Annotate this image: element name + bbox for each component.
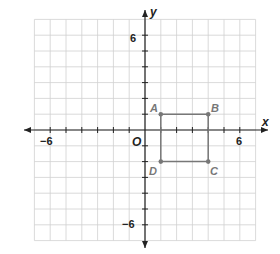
- origin-label: O: [132, 135, 142, 149]
- y-tick-label-6: 6: [130, 32, 136, 44]
- point-a-dot: [159, 112, 164, 117]
- axes: [24, 10, 268, 248]
- y-tick-label-neg6: −6: [122, 218, 135, 230]
- coordinate-plane: x y O −6 6 6 −6 A B C D: [0, 0, 280, 254]
- x-axis-left-arrow-icon: [24, 127, 31, 133]
- x-tick-label-6: 6: [236, 135, 242, 147]
- point-d-label: D: [149, 165, 157, 177]
- point-b-dot: [206, 112, 211, 117]
- point-b-label: B: [211, 102, 219, 114]
- point-d-dot: [159, 159, 164, 164]
- point-c-dot: [206, 159, 211, 164]
- y-axis-down-arrow-icon: [142, 241, 148, 248]
- x-axis-label: x: [261, 115, 270, 129]
- rectangle-abcd: [159, 112, 211, 164]
- x-tick-label-neg6: −6: [40, 135, 53, 147]
- y-axis-label: y: [149, 5, 158, 19]
- point-a-label: A: [149, 102, 158, 114]
- point-c-label: C: [210, 165, 219, 177]
- y-axis-up-arrow-icon: [142, 10, 148, 17]
